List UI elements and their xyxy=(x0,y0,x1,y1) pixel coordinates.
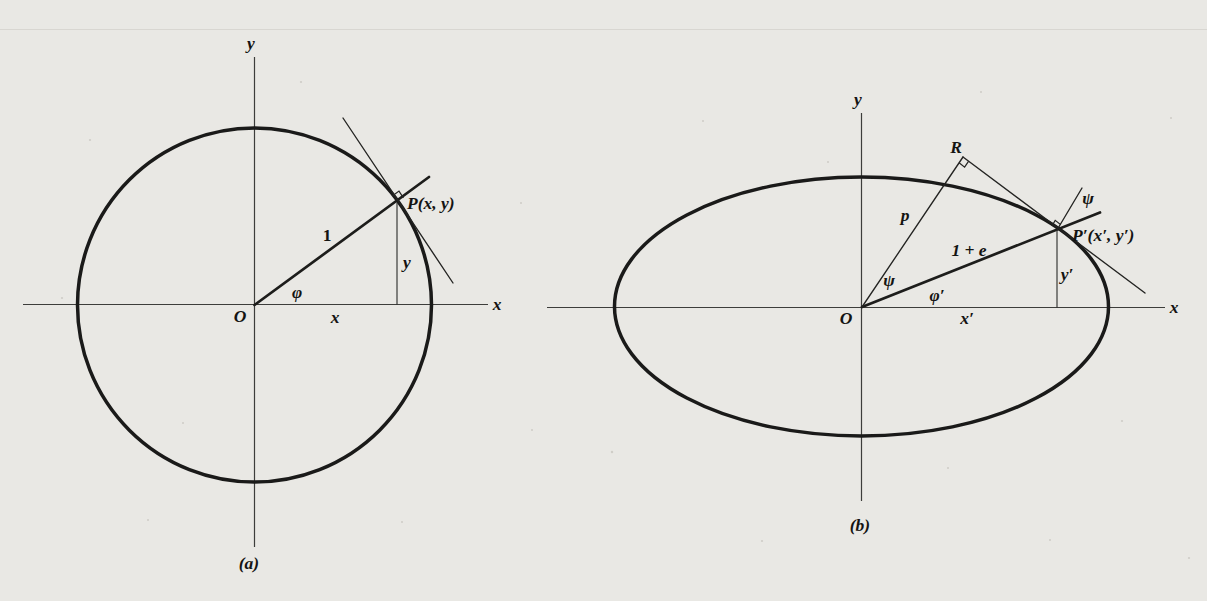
figure-a-origin-label: O xyxy=(234,306,247,326)
figure-a-phi-label: φ xyxy=(292,282,302,302)
figure-b-x-axis-label: x xyxy=(1169,297,1179,317)
figure-canvas: y x O 1 φ x y P(x, y) (a) xyxy=(0,0,1207,601)
figure-a-radius-label: 1 xyxy=(323,225,332,245)
figure-a-x-axis-label: x xyxy=(492,294,502,314)
scanned-page: y x O 1 φ x y P(x, y) (a) xyxy=(0,0,1207,601)
figure-a: y x O 1 φ x y P(x, y) (a) xyxy=(23,33,502,573)
figure-a-point-label: P(x, y) xyxy=(406,193,455,213)
figure-b-x-prime-segment-label: x′ xyxy=(959,308,974,328)
figure-b-radius-label: 1 + e xyxy=(951,240,986,260)
figure-a-y-axis-label: y xyxy=(245,33,255,53)
figure-a-y-segment-label: y xyxy=(401,252,411,272)
figure-b-y-prime-segment-label: y′ xyxy=(1059,264,1074,284)
right-angle-marker-r xyxy=(959,161,968,167)
paper-specks xyxy=(61,81,1190,559)
figure-a-caption: (a) xyxy=(239,553,259,573)
figure-b: y x O R p 1 + e ψ φ′ x′ y′ ψ P′(x′, y′) … xyxy=(547,89,1179,535)
figure-b-p-segment-label: p xyxy=(899,205,910,225)
figure-b-caption: (b) xyxy=(850,515,870,535)
figure-b-phi-prime-label: φ′ xyxy=(929,285,944,305)
figure-b-psi-point-label: ψ xyxy=(1082,188,1094,208)
figure-b-origin-label: O xyxy=(840,308,853,328)
figure-b-point-label: P′(x′, y′) xyxy=(1071,225,1134,245)
figure-b-y-axis-label: y xyxy=(852,89,862,109)
figure-b-foot-r-label: R xyxy=(949,137,962,157)
figure-b-psi-origin-label: ψ xyxy=(883,270,895,290)
figure-a-x-segment-label: x xyxy=(330,307,340,327)
